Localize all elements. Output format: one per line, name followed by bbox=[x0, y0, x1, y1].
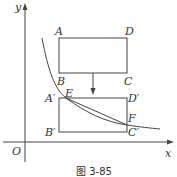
label-f: F bbox=[127, 112, 136, 125]
origin-label: O bbox=[12, 145, 21, 158]
label-e: E bbox=[64, 87, 73, 100]
label-b-prime: B′ bbox=[44, 126, 56, 139]
down-arrow-icon bbox=[91, 88, 96, 95]
y-axis-label: y bbox=[14, 1, 22, 14]
label-d-prime: D′ bbox=[127, 92, 140, 105]
diagram-canvas: y x O A D B C A′ D′ B′ C′ E F 图 3-85 bbox=[0, 0, 177, 177]
label-a-prime: A′ bbox=[44, 92, 56, 105]
label-b: B bbox=[56, 75, 65, 88]
label-d: D bbox=[124, 25, 134, 38]
label-c: C bbox=[124, 75, 133, 88]
label-a: A bbox=[54, 25, 63, 38]
rectangle-abcd bbox=[59, 38, 127, 73]
y-axis-arrow-icon bbox=[23, 3, 28, 10]
x-axis-label: x bbox=[165, 147, 172, 160]
chord-ef bbox=[66, 98, 127, 125]
figure-caption: 图 3-85 bbox=[76, 166, 112, 177]
label-c-prime: C′ bbox=[128, 126, 139, 139]
x-axis-arrow-icon bbox=[167, 140, 174, 145]
axes bbox=[3, 8, 170, 162]
